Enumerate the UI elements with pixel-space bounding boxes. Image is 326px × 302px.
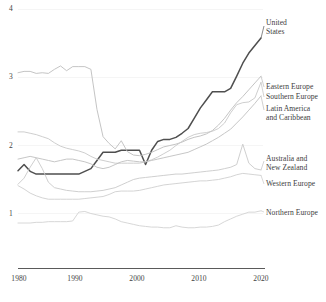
leader-line-western-europe — [261, 175, 264, 184]
series-label-latin-america-line1: Latin America — [266, 104, 310, 113]
x-tick-label-1990: 1990 — [62, 274, 88, 283]
leader-line-australia-and-new-zealand — [261, 161, 264, 170]
x-tick-label-1980: 1980 — [6, 274, 32, 283]
series-label-eastern-europe: Eastern Europe — [266, 82, 313, 91]
series-label-united-states-line1: United — [266, 18, 287, 27]
series-label-united-states-line2: States — [266, 27, 284, 36]
y-tick-label-1: 1 — [9, 209, 13, 218]
gridlines-group — [18, 10, 263, 214]
series-line-united-states — [18, 38, 261, 174]
line-chart-figure: 4 3 2 1 1980 1990 2000 2010 2020 United … — [0, 0, 326, 302]
series-label-southern-europe: Southern Europe — [266, 92, 318, 101]
chart-plot-area — [0, 0, 326, 302]
y-tick-label-2: 2 — [9, 141, 13, 150]
series-label-australia-line2: New Zealand — [266, 163, 307, 172]
x-tick-label-2000: 2000 — [124, 274, 150, 283]
leader-line-united-states — [261, 26, 264, 38]
leader-line-latin-america-and-caribbean — [261, 96, 264, 110]
leader-line-northern-europe — [261, 211, 264, 212]
y-tick-label-3: 3 — [9, 72, 13, 81]
y-tick-label-4: 4 — [9, 4, 13, 13]
series-label-western-europe: Western Europe — [266, 179, 315, 188]
series-label-australia-line1: Australia and — [266, 154, 307, 163]
x-tick-label-2020: 2020 — [248, 274, 274, 283]
leader-lines-group — [261, 26, 264, 212]
series-line-latin-america-and-caribbean — [18, 96, 261, 169]
series-line-western-europe — [18, 173, 261, 199]
series-line-eastern-europe — [18, 66, 261, 156]
series-label-northern-europe: Northern Europe — [266, 208, 318, 217]
series-paths-group — [18, 38, 261, 228]
x-tick-label-2010: 2010 — [186, 274, 212, 283]
series-label-latin-america-line2: and Caribbean — [266, 113, 311, 122]
